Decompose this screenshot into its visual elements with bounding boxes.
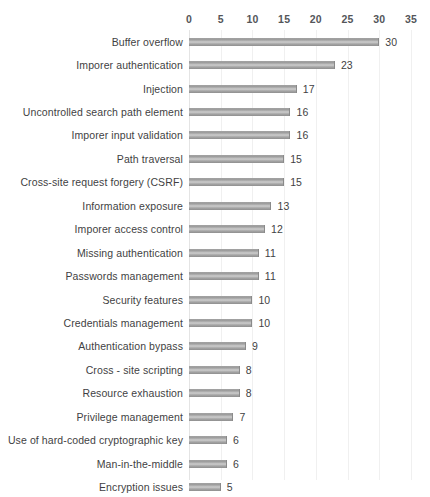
bar-value-label: 8 — [246, 387, 252, 399]
bar-and-value: 8 — [189, 366, 252, 374]
bar-and-value: 12 — [189, 225, 283, 233]
bar-and-value: 7 — [189, 413, 245, 421]
bar[interactable] — [189, 413, 233, 421]
bar-value-label: 13 — [277, 200, 289, 212]
category-label: Credentials management — [63, 317, 183, 329]
bar[interactable] — [189, 272, 259, 280]
bar-and-value: 16 — [189, 108, 308, 116]
category-label: Imporer input validation — [71, 129, 183, 141]
bar-and-value: 11 — [189, 272, 276, 280]
x-axis-tick-labels: 05101520253035 — [189, 13, 411, 29]
bar-and-value: 16 — [189, 131, 308, 139]
bar-row: Path traversal15 — [0, 147, 430, 170]
bar[interactable] — [189, 460, 227, 468]
bar[interactable] — [189, 61, 335, 69]
x-tick-5: 5 — [218, 13, 224, 25]
bar[interactable] — [189, 483, 221, 491]
bar-and-value: 11 — [189, 249, 276, 257]
bar-value-label: 9 — [252, 340, 258, 352]
bar-row: Authentication bypass9 — [0, 335, 430, 358]
bar[interactable] — [189, 202, 271, 210]
top-cutoff-strip — [22, 0, 180, 5]
x-tick-35: 35 — [405, 13, 417, 25]
bar-and-value: 6 — [189, 460, 239, 468]
x-tick-20: 20 — [310, 13, 322, 25]
bar[interactable] — [189, 155, 284, 163]
bar-value-label: 15 — [290, 153, 302, 165]
bar-and-value: 13 — [189, 202, 289, 210]
bar-and-value: 6 — [189, 436, 239, 444]
bar[interactable] — [189, 342, 246, 350]
bar-value-label: 11 — [265, 270, 276, 282]
bar-value-label: 30 — [385, 36, 397, 48]
bar-value-label: 10 — [258, 294, 270, 306]
bar[interactable] — [189, 319, 252, 327]
category-label: Cross - site scripting — [86, 364, 183, 376]
bar-row: Missing authentication11 — [0, 241, 430, 264]
bar-row: Use of hard-coded cryptographic key6 — [0, 428, 430, 451]
bar-value-label: 15 — [290, 176, 302, 188]
category-label: Buffer overflow — [112, 36, 183, 48]
bar-row: Imporer access control12 — [0, 218, 430, 241]
x-tick-0: 0 — [186, 13, 192, 25]
x-tick-15: 15 — [278, 13, 290, 25]
category-label: Passwords management — [65, 270, 183, 282]
bar-row: Buffer overflow30 — [0, 30, 430, 53]
bar-row: Imporer authentication23 — [0, 53, 430, 76]
bar-value-label: 6 — [233, 434, 239, 446]
bar-value-label: 6 — [233, 458, 239, 470]
bar-row: Cross-site request forgery (CSRF)15 — [0, 171, 430, 194]
bar[interactable] — [189, 131, 290, 139]
bar-and-value: 30 — [189, 38, 397, 46]
bar-row: Encryption issues5 — [0, 475, 430, 497]
bar-and-value: 17 — [189, 85, 315, 93]
category-label: Injection — [143, 83, 183, 95]
bar[interactable] — [189, 436, 227, 444]
bar[interactable] — [189, 366, 240, 374]
bar-row: Information exposure13 — [0, 194, 430, 217]
category-label: Security features — [103, 294, 184, 306]
bar[interactable] — [189, 296, 252, 304]
x-tick-25: 25 — [342, 13, 354, 25]
bar-row: Credentials management10 — [0, 311, 430, 334]
bar-and-value: 15 — [189, 178, 302, 186]
bar-row: Cross - site scripting8 — [0, 358, 430, 381]
bar-row: Man-in-the-middle6 — [0, 452, 430, 475]
x-tick-30: 30 — [373, 13, 385, 25]
bar-value-label: 23 — [341, 59, 353, 71]
bar[interactable] — [189, 38, 379, 46]
bar-value-label: 17 — [303, 83, 315, 95]
bar-value-label: 16 — [296, 129, 308, 141]
category-label: Uncontrolled search path element — [23, 106, 183, 118]
bar-row: Uncontrolled search path element16 — [0, 100, 430, 123]
bar[interactable] — [189, 389, 240, 397]
bar-rows: Buffer overflow30Imporer authentication2… — [0, 30, 430, 497]
bar[interactable] — [189, 85, 297, 93]
category-label: Authentication bypass — [78, 340, 183, 352]
category-label: Missing authentication — [77, 247, 183, 259]
bar-value-label: 7 — [239, 411, 245, 423]
bar-value-label: 8 — [246, 364, 252, 376]
bar-row: Security features10 — [0, 288, 430, 311]
bar[interactable] — [189, 108, 290, 116]
category-label: Cross-site request forgery (CSRF) — [20, 176, 183, 188]
bar-value-label: 16 — [296, 106, 308, 118]
bar[interactable] — [189, 225, 265, 233]
category-label: Man-in-the-middle — [97, 458, 183, 470]
bar-row: Injection17 — [0, 77, 430, 100]
category-label: Imporer access control — [75, 223, 183, 235]
bar[interactable] — [189, 249, 259, 257]
category-label: Use of hard-coded cryptographic key — [8, 434, 183, 446]
bar-row: Resource exhaustion8 — [0, 382, 430, 405]
bar-and-value: 10 — [189, 319, 270, 327]
bar-and-value: 10 — [189, 296, 270, 304]
bar-row: Imporer input validation16 — [0, 124, 430, 147]
bar-and-value: 8 — [189, 389, 252, 397]
category-label: Path traversal — [117, 153, 183, 165]
bar-row: Privilege management7 — [0, 405, 430, 428]
bar-value-label: 12 — [271, 223, 283, 235]
x-tick-10: 10 — [246, 13, 258, 25]
bar[interactable] — [189, 178, 284, 186]
bar-and-value: 15 — [189, 155, 302, 163]
